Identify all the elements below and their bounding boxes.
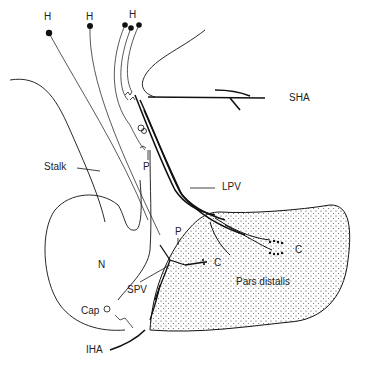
label-h1: H	[44, 12, 51, 22]
label-h2: H	[86, 12, 93, 22]
label-spv: SPV	[127, 285, 147, 295]
label-p-upper: P	[143, 162, 150, 172]
capillary-tufts-upper	[125, 92, 147, 148]
label-c-left: C	[214, 258, 221, 268]
label-sha: SHA	[289, 93, 310, 103]
label-stalk: Stalk	[44, 162, 66, 172]
superior-hypophyseal-artery	[148, 90, 265, 110]
diagram-drawing	[0, 0, 366, 367]
label-c-right: C	[295, 245, 302, 255]
label-cap: Cap	[81, 306, 99, 316]
cap-icon	[104, 306, 110, 312]
median-eminence-outline	[142, 30, 205, 97]
label-h3: H	[129, 10, 136, 20]
label-n: N	[98, 260, 105, 270]
label-lpv: LPV	[222, 182, 241, 192]
label-iha: IHA	[86, 345, 103, 355]
pars-distalis-region	[150, 205, 350, 331]
pituitary-diagram: H H H SHA Stalk P LPV P N C C SPV Pars d…	[0, 0, 366, 367]
hypothalamus-outline	[10, 79, 105, 222]
stalk-right-edge	[118, 150, 151, 300]
label-pars-distalis: Pars distalis	[236, 277, 290, 287]
stalk-pointer	[77, 168, 100, 171]
inferior-hypophyseal-artery	[110, 330, 145, 350]
label-p-lower: P	[175, 227, 182, 237]
